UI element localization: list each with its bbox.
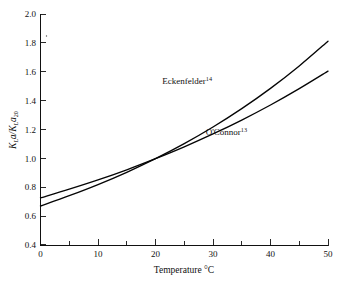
annotation-eckenfelder: Eckenfelder14 (162, 75, 212, 86)
annotation-eckenfelder-text: Eckenfelder (162, 76, 205, 86)
y-axis-tick-labels: 2.0 1.8 1.6 1.4 1.2 1.0 0.8 0.6 0.4 (25, 9, 37, 250)
y-axis-title-a1: a/K (8, 125, 18, 139)
x-tick-label: 0 (38, 249, 43, 259)
series-line-oconnor (41, 71, 329, 198)
x-tick-label: 40 (266, 249, 276, 259)
x-axis-ticks (41, 239, 329, 246)
annotation-oconnor-text: O'Connor (206, 127, 241, 137)
y-axis-title-sub3: 20 (12, 111, 19, 117)
annotation-oconnor-superscript: 13 (241, 126, 247, 133)
x-tick-label: 20 (151, 249, 161, 259)
x-tick-label: 10 (94, 249, 104, 259)
y-axis-title: KLa/KLa20 (8, 111, 19, 150)
svg-text:KLa/KLa20: KLa/KLa20 (8, 111, 19, 150)
y-tick-label: 0.4 (25, 240, 37, 250)
y-tick-label: 2.0 (25, 9, 37, 19)
series-line-eckenfelder (41, 41, 329, 206)
chart-plot-area: 2.0 1.8 1.6 1.4 1.2 1.0 0.8 0.6 0.4 0 (0, 0, 338, 284)
y-tick-label: 1.8 (25, 38, 37, 48)
annotation-eckenfelder-superscript: 14 (206, 75, 212, 82)
chart-figure: 2.0 1.8 1.6 1.4 1.2 1.0 0.8 0.6 0.4 0 (0, 0, 338, 284)
annotation-oconnor: O'Connor13 (206, 126, 247, 137)
y-tick-label: 1.6 (25, 67, 37, 77)
y-axis-ticks (41, 14, 46, 245)
x-axis-title: Temperature °C (154, 265, 214, 275)
x-tick-label: 50 (324, 249, 334, 259)
axis-frame (41, 14, 329, 246)
y-tick-label: 0.6 (25, 211, 37, 221)
y-tick-label: 1.0 (25, 154, 37, 164)
scan-speck (46, 35, 47, 36)
x-axis-tick-labels: 0 10 20 30 40 50 (38, 249, 333, 259)
y-tick-label: 1.2 (25, 125, 36, 135)
y-tick-label: 1.4 (25, 96, 37, 106)
y-tick-label: 0.8 (25, 182, 37, 192)
x-tick-label: 30 (209, 249, 219, 259)
